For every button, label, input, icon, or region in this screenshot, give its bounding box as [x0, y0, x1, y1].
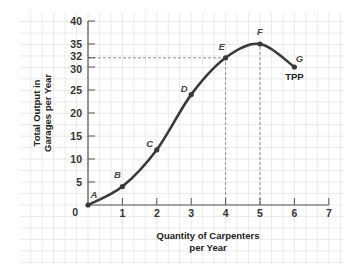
- y-tick-label: 15: [70, 130, 82, 142]
- x-tick-label: 1: [119, 207, 125, 219]
- point-c: [154, 147, 159, 152]
- point-g: [292, 64, 297, 69]
- y-tick-label: 20: [70, 107, 82, 119]
- background-grid: [20, 12, 344, 264]
- y-tick-label: 0: [72, 206, 78, 218]
- point-label-a: A: [90, 189, 98, 200]
- point-d: [189, 92, 194, 97]
- y-axis-title-line-2: Garages per Year: [42, 74, 53, 152]
- point-f: [257, 41, 262, 46]
- point-label-e: E: [218, 41, 225, 52]
- x-axis-title-line-1: Quantity of Carpenters: [157, 230, 260, 241]
- y-tick-label: 35: [70, 38, 82, 50]
- point-label-c: C: [146, 138, 153, 149]
- tpp-chart: 051015202530323540 1234567 ABCDEFGTPP To…: [0, 0, 352, 274]
- y-tick-label: 25: [70, 84, 82, 96]
- x-tick-label: 6: [291, 207, 297, 219]
- y-tick-label: 30: [70, 63, 82, 75]
- chart-canvas: 051015202530323540 1234567 ABCDEFGTPP To…: [0, 0, 352, 274]
- y-tick-label: 32: [70, 50, 82, 62]
- point-label-b: B: [114, 169, 121, 180]
- x-tick-label: 3: [188, 207, 194, 219]
- point-label-f: F: [257, 26, 263, 37]
- x-tick-label: 2: [154, 207, 160, 219]
- point-e: [223, 55, 228, 60]
- point-label-d: D: [181, 83, 188, 94]
- x-axis-title-line-2: per Year: [189, 242, 227, 253]
- point-a: [85, 202, 90, 207]
- curve-label-tpp: TPP: [285, 71, 304, 82]
- y-tick-label: 5: [76, 176, 82, 188]
- y-axis-ticks: 051015202530323540: [70, 15, 95, 218]
- y-axis-title-line-1: Total Output in: [31, 79, 42, 146]
- point-label-g: G: [296, 53, 304, 64]
- y-tick-label: 10: [70, 153, 82, 165]
- point-b: [120, 184, 125, 189]
- x-tick-label: 7: [326, 207, 332, 219]
- x-tick-label: 4: [223, 207, 229, 219]
- x-axis-ticks: 1234567: [119, 198, 331, 219]
- x-tick-label: 5: [257, 207, 263, 219]
- y-tick-label: 40: [70, 15, 82, 27]
